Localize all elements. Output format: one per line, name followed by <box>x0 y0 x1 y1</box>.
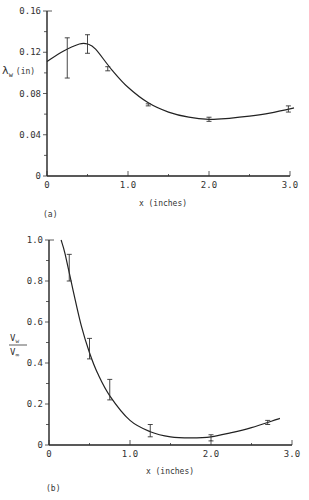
chart-b-ylabel-denominator: V∞ <box>10 347 19 358</box>
x-tick-label: 2.0 <box>203 449 219 459</box>
y-tick-label: 0.8 <box>27 276 43 286</box>
x-tick-label: 2.0 <box>201 180 217 190</box>
fit-curve <box>61 240 280 438</box>
chart-a-xlabel: x (inches) <box>139 199 187 208</box>
y-tick-label: 1.0 <box>27 235 43 245</box>
x-tick-label: 0 <box>44 180 49 190</box>
chart-b-ylabel-numerator: Vw <box>10 333 19 344</box>
chart-b-panel-label: (b) <box>46 484 60 493</box>
fit-curve <box>47 43 294 119</box>
chart-a-fit-curve <box>47 43 294 119</box>
chart-a: 00.040.080.120.1601.02.03.0 λw(in) x (in… <box>2 6 298 219</box>
y-tick-label: 0.4 <box>27 358 43 368</box>
error-bar <box>67 254 72 281</box>
x-tick-label: 0 <box>46 449 51 459</box>
y-tick-label: 0.04 <box>19 130 41 140</box>
chart-b-error-bars <box>67 254 270 441</box>
error-bar <box>107 379 112 400</box>
chart-a-error-bars <box>65 35 291 122</box>
y-tick-label: 0.16 <box>19 6 41 16</box>
error-bar <box>65 38 70 78</box>
chart-b-ylabel: Vw V∞ <box>9 333 27 358</box>
chart-a-ylabel: λw(in) <box>2 64 35 79</box>
x-tick-label: 1.0 <box>120 180 136 190</box>
y-tick-label: 0.12 <box>19 47 41 57</box>
chart-a-axes: 00.040.080.120.1601.02.03.0 <box>19 6 298 190</box>
y-tick-label: 0 <box>38 440 43 450</box>
x-tick-label: 1.0 <box>122 449 138 459</box>
y-tick-label: 0.6 <box>27 317 43 327</box>
x-tick-label: 3.0 <box>282 180 298 190</box>
y-tick-label: 0.08 <box>19 89 41 99</box>
figure: 00.040.080.120.1601.02.03.0 λw(in) x (in… <box>0 0 309 500</box>
error-bar <box>146 104 151 106</box>
chart-a-panel-label: (a) <box>43 210 57 219</box>
chart-b-fit-curve <box>61 240 280 438</box>
chart-b: 00.20.40.60.81.001.02.03.0 Vw V∞ x (inch… <box>9 235 300 493</box>
y-tick-label: 0 <box>36 171 41 181</box>
y-tick-label: 0.2 <box>27 399 43 409</box>
chart-b-xlabel: x (inches) <box>146 467 194 476</box>
error-bar <box>209 435 214 441</box>
x-tick-label: 3.0 <box>284 449 300 459</box>
